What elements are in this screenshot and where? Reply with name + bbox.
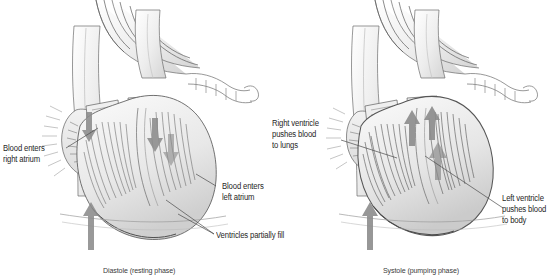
caption-systole: Systole (pumping phase) [383, 266, 459, 275]
heart-illustration-systole [279, 0, 557, 276]
label-blood-enters-right-atrium: Blood enters right atrium [3, 143, 45, 165]
label-blood-enters-left-atrium: Blood enters left atrium [222, 181, 264, 203]
label-right-ventricle-pushes-blood-to-lungs: Right ventricle pushes blood to lungs [272, 118, 319, 152]
label-left-ventricle-pushes-blood-to-body: Left ventricle pushes blood to body [502, 193, 546, 227]
panel-systole [279, 0, 557, 276]
label-ventricles-partially-fill: Ventricles partially fill [216, 230, 284, 241]
caption-diastole: Diastole (resting phase) [103, 266, 175, 275]
